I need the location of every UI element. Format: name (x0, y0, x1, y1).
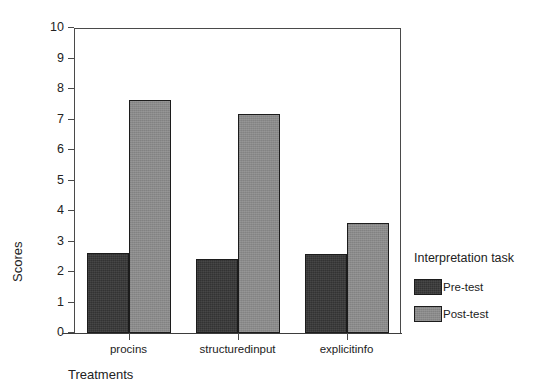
y-tick-label: 10 (50, 19, 64, 36)
bar-structuredinput-post-test (238, 114, 280, 333)
y-tick-label: 6 (57, 141, 64, 158)
legend-item-post-test: Post-test (414, 306, 556, 322)
x-tick-mark (238, 333, 239, 340)
legend-item-pre-test: Pre-test (414, 279, 556, 295)
legend: Interpretation task Pre-testPost-test (414, 250, 556, 333)
legend-swatch-pre-test (414, 279, 442, 295)
y-tick-label: 4 (57, 202, 64, 219)
bar-explicitinfo-post-test (347, 223, 389, 333)
y-tick-label: 8 (57, 80, 64, 97)
y-tick-label: 9 (57, 50, 64, 67)
y-tick-label: 7 (57, 111, 64, 128)
legend-swatch-post-test (414, 306, 442, 322)
bar-explicitinfo-pre-test (305, 254, 347, 333)
x-tick-mark (347, 333, 348, 340)
x-axis-line (62, 333, 402, 334)
bar-procins-pre-test (87, 253, 129, 333)
bar-procins-post-test (129, 100, 171, 333)
legend-label-post-test: Post-test (443, 307, 488, 322)
y-axis: 109876543210 (0, 0, 74, 390)
y-tick-label: 2 (57, 263, 64, 280)
x-axis-label-procins: procins (110, 342, 147, 357)
legend-title: Interpretation task (414, 250, 556, 267)
bar-chart: 109876543210 Scores Treatments Interpret… (0, 0, 560, 390)
x-axis-label-explicitinfo: explicitinfo (320, 342, 374, 357)
y-axis-title: Scores (10, 258, 26, 282)
bars-layer (74, 28, 401, 333)
legend-label-pre-test: Pre-test (443, 280, 483, 295)
y-tick-label: 5 (57, 172, 64, 189)
x-axis-title: Treatments (68, 366, 133, 383)
y-tick-label: 3 (57, 233, 64, 250)
x-tick-mark (129, 333, 130, 340)
y-tick-label: 1 (57, 294, 64, 311)
bar-structuredinput-pre-test (196, 259, 238, 333)
x-axis-label-structuredinput: structuredinput (199, 342, 275, 357)
